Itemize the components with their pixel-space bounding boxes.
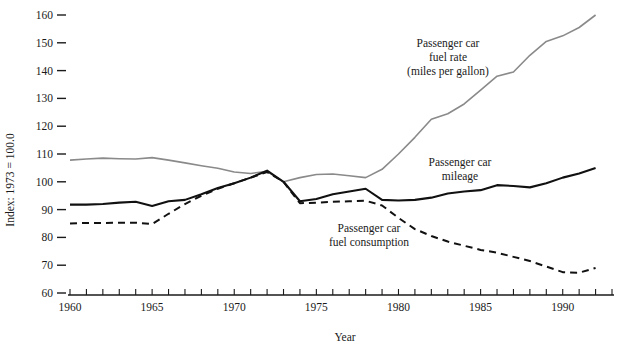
x-axis-tick-label: 1970 — [223, 301, 246, 313]
y-axis-tick-label: 140 — [36, 65, 54, 77]
x-axis-title: Year — [334, 331, 355, 343]
y-axis-tick-labels: 60708090100110120130140150160 — [36, 9, 54, 299]
fuel-consumption-label: Passenger carfuel consumption — [329, 222, 409, 249]
y-axis-tick-label: 130 — [36, 92, 54, 104]
y-axis-tick-label: 70 — [42, 259, 54, 271]
x-axis-tick-labels: 1960196519701975198019851990 — [59, 301, 575, 313]
x-axis: 1960196519701975198019851990 — [59, 289, 615, 313]
y-axis-tick-label: 60 — [42, 287, 54, 299]
x-axis-tick-label: 1980 — [387, 301, 410, 313]
data-series-group — [70, 15, 596, 273]
x-axis-tick-label: 1965 — [141, 301, 164, 313]
series-line-fuel-rate — [70, 15, 596, 182]
line-chart-canvas: 60708090100110120130140150160 1960196519… — [0, 0, 625, 347]
y-axis-tick-marks — [57, 15, 66, 293]
x-axis-tick-label: 1960 — [59, 301, 82, 313]
fuel-rate-label-line: fuel rate — [429, 51, 467, 63]
mileage-label-line: mileage — [442, 170, 478, 183]
x-axis-tick-marks — [70, 289, 612, 295]
y-axis-tick-label: 80 — [42, 231, 54, 243]
fuel-rate-label-line: Passenger car — [417, 37, 480, 50]
mileage-label: Passenger carmileage — [429, 156, 492, 183]
x-axis-tick-label: 1990 — [551, 301, 574, 313]
y-axis-tick-label: 160 — [36, 9, 54, 21]
fuel-rate-label-line: (miles per gallon) — [407, 65, 489, 78]
x-axis-tick-label: 1975 — [305, 301, 328, 313]
chart-figure: 60708090100110120130140150160 1960196519… — [0, 0, 625, 347]
fuel-consumption-label-line: Passenger car — [338, 222, 401, 235]
y-axis-tick-label: 110 — [36, 148, 53, 160]
y-axis-title: Index: 1973 = 100.0 — [4, 133, 16, 227]
y-axis-tick-label: 90 — [42, 204, 54, 216]
fuel-rate-label: Passenger carfuel rate(miles per gallon) — [407, 37, 489, 78]
fuel-consumption-label-line: fuel consumption — [329, 236, 409, 249]
y-axis-tick-label: 100 — [36, 176, 54, 188]
x-axis-tick-label: 1985 — [469, 301, 492, 313]
y-axis-tick-label: 150 — [36, 37, 54, 49]
y-axis-tick-label: 120 — [36, 120, 54, 132]
mileage-label-line: Passenger car — [429, 156, 492, 169]
